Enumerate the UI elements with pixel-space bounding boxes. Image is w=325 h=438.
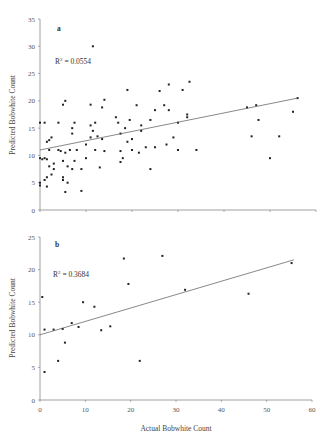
y-tick-label: 5: [32, 179, 36, 187]
data-point: [251, 135, 253, 137]
data-point: [53, 168, 55, 170]
y-tick-label: 5: [32, 364, 36, 372]
data-point: [85, 157, 87, 159]
data-point: [78, 326, 80, 328]
data-point: [269, 157, 271, 159]
data-point: [46, 158, 48, 160]
y-tick-label: 10: [28, 152, 36, 160]
panel-b-chart: 0510152025 0102030405060 b R2 = 0.3684 P…: [8, 234, 316, 434]
y-tick-label: 20: [28, 97, 36, 105]
data-point: [57, 122, 59, 124]
data-point: [74, 122, 76, 124]
data-point: [71, 168, 73, 170]
data-point: [39, 122, 41, 124]
data-point: [57, 149, 59, 151]
data-point: [64, 191, 66, 193]
data-point: [62, 179, 64, 181]
data-point: [39, 157, 41, 159]
data-point: [136, 104, 138, 106]
panel-b-y-ticks: 0510152025: [28, 234, 40, 405]
x-tick-label: 50: [263, 406, 271, 414]
data-point: [195, 149, 197, 151]
data-point: [53, 163, 55, 165]
panel-a-y-axis-title: Predicted Bobwhite Count: [8, 74, 17, 154]
data-point: [51, 174, 53, 176]
data-point: [57, 360, 59, 362]
data-point: [159, 90, 161, 92]
data-point: [291, 262, 293, 264]
panel-b-y-axis-title: Predicted Bobwhite Count: [8, 277, 17, 357]
data-point: [149, 168, 151, 170]
data-point: [44, 157, 46, 159]
data-point: [41, 158, 43, 160]
data-point: [48, 139, 50, 141]
data-point: [90, 104, 92, 106]
panel-a-chart: 05101520253035 a R2 = 0.0554 Predicted B…: [8, 16, 316, 215]
y-tick-label: 20: [28, 266, 36, 274]
y-tick-label: 10: [28, 331, 36, 339]
data-point: [92, 45, 94, 47]
data-point: [103, 150, 105, 152]
data-point: [82, 301, 84, 303]
data-point: [39, 184, 41, 186]
data-point: [182, 89, 184, 91]
data-point: [64, 342, 66, 344]
data-point: [109, 325, 111, 327]
data-point: [99, 166, 101, 168]
x-tick-label: 10: [82, 406, 90, 414]
panel-b-x-ticks: 0102030405060: [38, 400, 316, 414]
data-point: [172, 136, 174, 138]
data-point: [80, 190, 82, 192]
data-point: [120, 161, 122, 163]
data-point: [62, 176, 64, 178]
data-point: [126, 141, 128, 143]
data-point: [248, 293, 250, 295]
panel-a-r2: R2 = 0.0554: [55, 57, 91, 66]
data-point: [76, 149, 78, 151]
data-point: [62, 160, 64, 162]
data-point: [149, 119, 151, 121]
y-tick-label: 15: [28, 125, 36, 133]
data-point: [44, 329, 46, 331]
data-point: [127, 283, 129, 285]
data-point: [60, 150, 62, 152]
data-point: [90, 136, 92, 138]
data-point: [161, 255, 163, 257]
panel-a-label: a: [57, 24, 61, 33]
data-point: [154, 146, 156, 148]
data-point: [100, 329, 102, 331]
data-point: [67, 182, 69, 184]
panel-a-points: [39, 45, 299, 193]
data-point: [48, 149, 50, 151]
data-point: [131, 138, 133, 140]
data-point: [41, 296, 43, 298]
data-point: [292, 111, 294, 113]
data-point: [71, 322, 73, 324]
y-tick-label: 30: [28, 43, 36, 51]
data-point: [126, 89, 128, 91]
data-point: [184, 289, 186, 291]
data-point: [94, 149, 96, 151]
data-point: [186, 114, 188, 116]
data-point: [46, 186, 48, 188]
data-point: [258, 119, 260, 121]
data-point: [46, 176, 48, 178]
data-point: [44, 122, 46, 124]
panel-b-x-axis-title: Actual Bobwhite Count: [140, 424, 212, 433]
data-point: [67, 165, 69, 167]
data-point: [94, 122, 96, 124]
data-point: [177, 149, 179, 151]
data-point: [140, 130, 142, 132]
data-point: [255, 104, 257, 106]
data-point: [115, 116, 117, 118]
y-tick-label: 35: [28, 16, 36, 24]
x-tick-label: 20: [127, 406, 135, 414]
data-point: [71, 133, 73, 135]
data-point: [103, 99, 105, 101]
data-point: [80, 168, 82, 170]
data-point: [168, 109, 170, 111]
data-point: [129, 119, 131, 121]
x-tick-label: 40: [218, 406, 226, 414]
data-point: [139, 360, 141, 362]
data-point: [166, 144, 168, 146]
